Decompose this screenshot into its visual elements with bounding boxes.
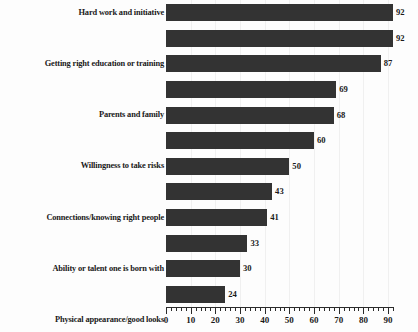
axis-tick-minor [284,308,285,311]
axis-tick-minor [294,308,295,311]
bar-value-label: 33 [250,235,259,252]
bar [166,107,334,124]
x-tick-label-10: 10 [186,315,195,325]
x-tick-label-40: 40 [260,315,269,325]
bar-value-label: 92 [396,30,405,47]
axis-tick-minor [324,308,325,311]
axis-tick-major-60 [314,308,315,314]
axis-tick-minor [245,308,246,311]
axis-tick-minor [181,308,182,311]
chart-row: Parents and family87 [0,51,418,77]
axis-tick-minor [275,308,276,311]
chart-bars-container: Hard work and initiative92Getting right … [0,0,418,307]
axis-tick-minor [270,308,271,311]
bar-value-label: 41 [270,209,279,226]
axis-tick-minor [368,308,369,311]
axis-tick-minor [393,308,394,311]
chart-row: Gender33 [0,230,418,256]
chart-row: Physical appearance/good looks50 [0,154,418,180]
axis-tick-minor [171,308,172,311]
axis-tick-minor [349,308,350,311]
axis-tick-major-20 [215,308,216,314]
axis-tick-minor [176,308,177,311]
axis-tick-major-80 [363,308,364,314]
chart-row: Member of particular race/ethnic group30 [0,256,418,282]
x-tick-label-70: 70 [334,315,343,325]
bar [166,235,247,252]
axis-tick-minor [235,308,236,311]
bar-value-label: 69 [339,81,348,98]
chart-row: Getting right education or training92 [0,26,418,52]
x-tick-label-0: 0 [164,315,169,325]
chart-row: Connections/knowing right people68 [0,102,418,128]
chart-row: Hard work and initiative92 [0,0,418,26]
axis-tick-minor [334,308,335,311]
axis-tick-major-0 [166,308,167,314]
bar [166,81,336,98]
chart-row: Money inherited from family41 [0,205,418,231]
axis-tick-minor [205,308,206,311]
bar-value-label: 92 [396,4,405,21]
axis-tick-minor [304,308,305,311]
axis-tick-major-90 [388,308,389,314]
bar [166,4,393,21]
axis-tick-major-30 [240,308,241,314]
bar-value-label: 68 [337,107,346,124]
bar-value-label: 30 [243,260,252,277]
axis-tick-major-40 [265,308,266,314]
axis-tick-minor [225,308,226,311]
bar [166,55,381,72]
bar [166,158,289,175]
axis-tick-minor [383,308,384,311]
bar-value-label: 43 [275,183,284,200]
x-tick-label-50: 50 [285,315,294,325]
axis-tick-major-10 [191,308,192,314]
axis-tick-minor [210,308,211,311]
x-tick-label-30: 30 [236,315,245,325]
bar-value-label: 50 [292,158,301,175]
axis-tick-minor [220,308,221,311]
axis-tick-minor [358,308,359,311]
x-axis-ticks [166,308,394,314]
bar-value-label: 87 [384,55,393,72]
bar [166,286,225,303]
chart-row: Ability or talent one is born with60 [0,128,418,154]
axis-tick-minor [255,308,256,311]
chart-row: Willingness to take risks69 [0,77,418,103]
axis-tick-minor [354,308,355,311]
x-tick-label-20: 20 [211,315,220,325]
chart-row: Dishonesty and willingness to take whate… [0,281,418,307]
axis-tick-minor [186,308,187,311]
axis-tick-minor [260,308,261,311]
axis-tick-minor [319,308,320,311]
axis-tick-minor [299,308,300,311]
axis-tick-major-70 [339,308,340,314]
x-tick-label-60: 60 [310,315,319,325]
bar [166,132,314,149]
axis-tick-minor [309,308,310,311]
bar [166,30,393,47]
x-tick-label-80: 80 [359,315,368,325]
bar-value-label: 60 [317,132,326,149]
x-axis-tick-labels: 0102030405060708090 [0,315,418,331]
axis-tick-minor [329,308,330,311]
axis-tick-minor [230,308,231,311]
axis-tick-major-50 [289,308,290,314]
bar [166,209,267,226]
x-tick-label-90: 90 [384,315,393,325]
bar [166,183,272,200]
axis-tick-minor [378,308,379,311]
axis-tick-minor [250,308,251,311]
bar [166,260,240,277]
category-label: Hard work and initiative [4,8,164,18]
chart-row: Good luck/in right place at right time43 [0,179,418,205]
axis-tick-minor [280,308,281,311]
axis-tick-minor [201,308,202,311]
bar-chart: Hard work and initiative92Getting right … [0,0,418,332]
axis-tick-minor [196,308,197,311]
bar-value-label: 24 [228,286,237,303]
axis-tick-minor [344,308,345,311]
axis-tick-minor [373,308,374,311]
